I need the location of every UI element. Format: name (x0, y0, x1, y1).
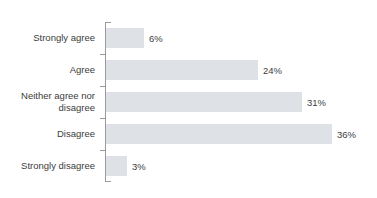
bar-row: Agree 24% (0, 54, 377, 86)
bar-row: Strongly agree 6% (0, 22, 377, 54)
bar-group-strongly-disagree: 3% (106, 156, 146, 176)
bar-disagree (106, 124, 332, 144)
bar-value-neither-agree-nor-disagree: 31% (307, 97, 326, 108)
bar-strongly-disagree (106, 156, 127, 176)
bar-value-strongly-agree: 6% (149, 33, 163, 44)
bar-value-strongly-disagree: 3% (132, 161, 146, 172)
category-label-disagree: Disagree (0, 128, 95, 140)
bar-strongly-agree (106, 28, 144, 48)
bar-chart-figure: decisions Strongly agree 6% Agree 24% (0, 0, 377, 198)
bar-group-agree: 24% (106, 60, 282, 80)
bar-value-agree: 24% (263, 65, 282, 76)
bar-neither-agree-nor-disagree (106, 92, 302, 112)
bar-group-strongly-agree: 6% (106, 28, 163, 48)
category-label-neither-agree-nor-disagree: Neither agree nor disagree (0, 90, 95, 113)
plot-area: Strongly agree 6% Agree 24% Neither agre… (0, 22, 377, 184)
bar-group-neither-agree-nor-disagree: 31% (106, 92, 326, 112)
bar-group-disagree: 36% (106, 124, 356, 144)
bar-row: Disagree 36% (0, 118, 377, 150)
category-label-agree: Agree (0, 64, 95, 76)
category-label-strongly-agree: Strongly agree (0, 32, 95, 44)
bar-row: Strongly disagree 3% (0, 150, 377, 182)
bar-value-disagree: 36% (337, 129, 356, 140)
bar-agree (106, 60, 258, 80)
category-label-strongly-disagree: Strongly disagree (0, 160, 95, 172)
bar-row: Neither agree nor disagree 31% (0, 86, 377, 118)
chart-title: decisions (10, 0, 370, 2)
